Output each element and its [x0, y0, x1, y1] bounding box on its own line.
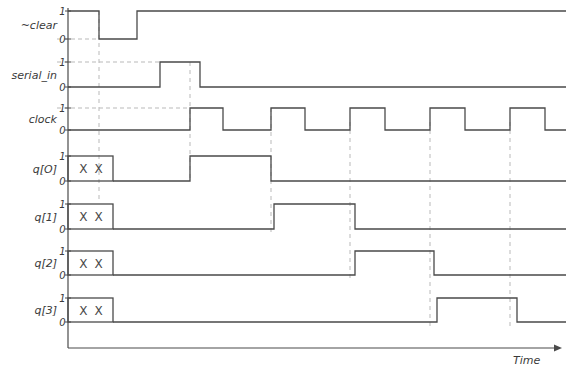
unknown-x-glyph-right-q[2]: X	[94, 257, 102, 271]
signal-q[1]: XX	[68, 204, 566, 229]
signal-clock	[68, 108, 566, 130]
signal-label-~clear: ~clear	[21, 19, 59, 32]
unknown-x-glyph-left-q[3]: X	[79, 304, 87, 318]
level-low-label-q[0]: 0	[59, 176, 65, 187]
signal-label-q[0]: q[O]	[33, 163, 57, 176]
unknown-x-glyph-right-q[1]: X	[94, 210, 102, 224]
unknown-box-q[1]	[68, 204, 113, 229]
waveform-canvas: XXXXXXXX ~clear10serial_in10clock10q[O]1…	[0, 0, 572, 371]
signal-trace-clock	[68, 108, 566, 130]
level-high-label-q[3]: 1	[59, 293, 65, 304]
time-axis-label: Time	[513, 354, 540, 367]
unknown-x-glyph-left-q[2]: X	[79, 257, 87, 271]
signal-trace-q[0]	[113, 156, 566, 181]
signal-labels-group: ~clear10serial_in10clock10q[O]10q[1]10q[…	[12, 6, 71, 328]
signal-~clear	[68, 11, 566, 39]
level-high-label-~clear: 1	[59, 6, 65, 17]
level-low-label-q[1]: 0	[59, 224, 65, 235]
level-low-label-q[2]: 0	[59, 270, 65, 281]
level-low-label-~clear: 0	[59, 34, 65, 45]
signal-q[0]: XX	[68, 156, 566, 181]
timing-diagram: XXXXXXXX ~clear10serial_in10clock10q[O]1…	[0, 0, 572, 371]
unknown-x-glyph-right-q[0]: X	[94, 162, 102, 176]
signal-trace-q[2]	[113, 251, 566, 275]
signal-traces-group: XXXXXXXX	[68, 11, 566, 322]
signal-label-serial_in: serial_in	[12, 69, 57, 82]
dashed-time-markers	[99, 11, 510, 326]
level-high-label-clock: 1	[59, 103, 65, 114]
signal-label-q[2]: q[2]	[34, 257, 57, 270]
level-low-label-q[3]: 0	[59, 317, 65, 328]
signal-q[2]: XX	[68, 251, 566, 275]
unknown-x-glyph-right-q[3]: X	[94, 304, 102, 318]
unknown-box-q[0]	[68, 156, 113, 181]
level-low-label-serial_in: 0	[59, 82, 65, 93]
signal-trace-serial_in	[68, 62, 566, 87]
time-axis-arrowhead	[554, 345, 562, 352]
level-high-label-q[2]: 1	[59, 246, 65, 257]
level-high-label-serial_in: 1	[59, 57, 65, 68]
signal-trace-q[1]	[113, 204, 566, 229]
signal-label-q[3]: q[3]	[34, 304, 57, 317]
signal-trace-~clear	[68, 11, 566, 39]
signal-label-clock: clock	[29, 113, 58, 126]
unknown-x-glyph-left-q[1]: X	[79, 210, 87, 224]
signal-q[3]: XX	[68, 298, 566, 322]
axes-group	[68, 8, 562, 352]
unknown-box-q[3]	[68, 298, 113, 322]
level-high-label-q[0]: 1	[59, 151, 65, 162]
dashed-level-guides	[57, 39, 190, 108]
signal-trace-q[3]	[113, 298, 566, 322]
signal-label-q[1]: q[1]	[34, 211, 57, 224]
level-low-label-clock: 0	[59, 125, 65, 136]
signal-serial_in	[68, 62, 566, 87]
unknown-box-q[2]	[68, 251, 113, 275]
unknown-x-glyph-left-q[0]: X	[79, 162, 87, 176]
level-high-label-q[1]: 1	[59, 199, 65, 210]
